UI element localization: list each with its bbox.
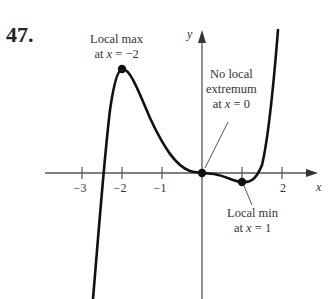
local-min-point bbox=[238, 178, 246, 186]
y-axis-arrow-icon bbox=[198, 30, 206, 43]
x-tick-label-neg2: −2 bbox=[108, 181, 132, 196]
x-tick-label-neg1: −1 bbox=[148, 181, 172, 196]
local-min-leader bbox=[244, 186, 252, 205]
y-axis-label: y bbox=[187, 27, 192, 42]
local-min-annotation: Local min at x = 1 bbox=[227, 206, 278, 236]
x-axis-arrow-icon bbox=[306, 169, 318, 177]
x-axis-label: x bbox=[316, 180, 321, 195]
function-graph bbox=[0, 0, 329, 299]
no-extremum-annotation: No local extremum at x = 0 bbox=[206, 67, 257, 112]
local-max-point bbox=[118, 65, 126, 73]
inflection-point bbox=[198, 169, 206, 177]
x-tick-label-2: 2 bbox=[271, 181, 295, 196]
x-tick-label-neg3: −3 bbox=[68, 181, 92, 196]
local-max-annotation: Local max at x = −2 bbox=[90, 32, 143, 62]
no-extremum-leader bbox=[205, 122, 228, 168]
